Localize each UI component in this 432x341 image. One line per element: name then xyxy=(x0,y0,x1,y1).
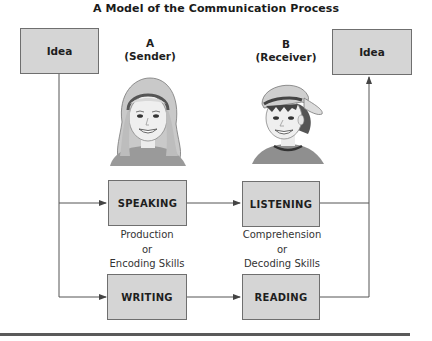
receiver-idea-label: Idea xyxy=(359,46,385,58)
sender-idea-box: Idea xyxy=(20,28,99,74)
listening-box: LISTENING xyxy=(242,181,320,227)
production-line3: Encoding Skills xyxy=(92,257,202,272)
receiver-label: B (Receiver) xyxy=(248,38,324,64)
reading-label: READING xyxy=(255,292,308,303)
receiver-letter: B xyxy=(248,38,324,51)
sender-role: (Sender) xyxy=(118,50,182,63)
production-line1: Production xyxy=(92,228,202,243)
comprehension-skills-label: Comprehension or Decoding Skills xyxy=(226,228,338,272)
receiver-idea-box: Idea xyxy=(332,29,412,75)
receiver-role: (Receiver) xyxy=(248,51,324,64)
production-line2: or xyxy=(92,243,202,258)
sender-idea-label: Idea xyxy=(47,45,73,57)
reading-box: READING xyxy=(242,274,320,320)
writing-label: WRITING xyxy=(121,292,173,303)
sender-letter: A xyxy=(118,37,182,50)
writing-box: WRITING xyxy=(107,274,187,320)
speaking-label: SPEAKING xyxy=(118,198,178,209)
comprehension-line2: or xyxy=(226,243,338,258)
sender-label: A (Sender) xyxy=(118,37,182,63)
comprehension-line1: Comprehension xyxy=(226,228,338,243)
comprehension-line3: Decoding Skills xyxy=(226,257,338,272)
speaking-box: SPEAKING xyxy=(108,180,187,226)
production-skills-label: Production or Encoding Skills xyxy=(92,228,202,272)
listening-label: LISTENING xyxy=(250,199,312,210)
bottom-rule xyxy=(0,333,410,336)
sender-girl-illustration xyxy=(108,74,188,170)
receiver-boy-illustration xyxy=(248,74,328,170)
